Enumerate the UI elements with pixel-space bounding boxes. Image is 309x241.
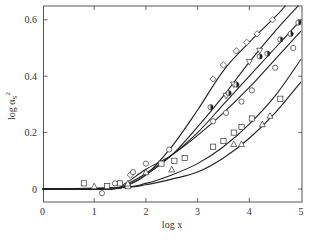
tick-labels: 01234500.20.40.6 (25, 14, 304, 217)
square-marker-icon (211, 144, 216, 149)
circle-marker-icon (223, 110, 228, 115)
square-marker-icon (278, 96, 283, 101)
square-marker-icon (231, 130, 236, 135)
y-tick-label: 0.2 (25, 127, 38, 138)
x-tick-label: 4 (247, 206, 252, 217)
x-tick-label: 5 (299, 206, 304, 217)
y-axis-label: log αS2 (4, 92, 19, 120)
circle-marker-icon (130, 169, 135, 174)
chart: 01234500.20.40.6 log x log αS2 (0, 0, 309, 241)
square-marker-icon (117, 181, 122, 186)
curve-3 (43, 20, 302, 190)
square-marker-icon (172, 158, 177, 163)
x-tick-label: 2 (143, 206, 148, 217)
square-marker-icon (159, 161, 164, 166)
circle-marker-icon (239, 99, 244, 104)
x-tick-label: 3 (195, 206, 200, 217)
square-marker-icon (81, 181, 86, 186)
x-axis-label: log x (162, 219, 182, 230)
square-marker-icon (221, 138, 226, 143)
square-marker-icon (239, 124, 244, 129)
square-marker-icon (249, 116, 254, 121)
y-tick-label: 0 (32, 184, 37, 195)
circle-marker-icon (143, 161, 148, 166)
circle-marker-icon (99, 191, 104, 196)
square-marker-icon (105, 184, 110, 189)
circle-marker-icon (167, 147, 172, 152)
data-markers (81, 17, 301, 196)
triangle-up-marker-icon (231, 141, 237, 147)
triangle-up-marker-icon (91, 183, 97, 189)
square-marker-icon (182, 155, 187, 160)
circle-marker-icon (211, 119, 216, 124)
y-tick-label: 0.4 (25, 71, 38, 82)
circle-marker-icon (112, 181, 117, 186)
x-tick-label: 0 (40, 206, 45, 217)
diamond-marker-icon (210, 76, 216, 82)
axis-ticks (44, 6, 303, 202)
triangle-down-marker-icon (257, 48, 263, 54)
y-tick-label: 0.6 (25, 14, 38, 25)
x-tick-label: 1 (92, 206, 97, 217)
circle-marker-icon (273, 65, 278, 70)
circle-marker-icon (249, 88, 254, 93)
curve-6 (43, 82, 302, 189)
diamond-marker-icon (244, 39, 250, 45)
plot-frame (44, 6, 303, 202)
circle-marker-icon (291, 45, 296, 50)
triangle-up-marker-icon (169, 166, 175, 172)
